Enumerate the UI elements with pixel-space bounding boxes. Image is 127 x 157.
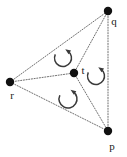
- vertex-t: [70, 69, 78, 77]
- edge-r-t: [10, 73, 74, 82]
- vertex-r: [6, 78, 14, 86]
- vertex-label-r: r: [10, 89, 14, 101]
- vertex-q: [104, 7, 112, 15]
- vertices-group: [6, 7, 112, 135]
- vertex-p: [104, 127, 112, 135]
- diagram-canvas: qrtp: [0, 0, 127, 157]
- vertex-label-p: p: [109, 140, 115, 152]
- edge-r-q: [10, 11, 108, 82]
- vertex-label-t: t: [81, 64, 84, 76]
- rotation-markers-group: [55, 49, 105, 108]
- graph-diagram: qrtp: [0, 0, 127, 157]
- rotation-right-icon: [88, 67, 105, 84]
- rotation-lower-icon: [59, 90, 77, 108]
- edges-group: [10, 11, 108, 131]
- edge-q-t: [74, 11, 108, 73]
- vertex-label-q: q: [111, 15, 117, 27]
- rotation-upper-icon: [55, 49, 72, 66]
